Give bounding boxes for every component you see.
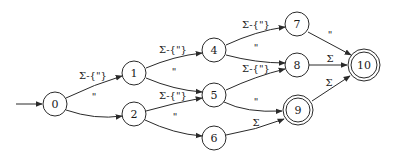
edge-label-7-10: " (328, 29, 333, 40)
svg-text:10: 10 (357, 59, 371, 72)
state-10-accepting: 10 (348, 49, 380, 81)
svg-text:5: 5 (211, 89, 218, 102)
edge-label-4-8: " (254, 42, 259, 53)
state-9-accepting: 9 (283, 95, 313, 125)
svg-text:4: 4 (211, 44, 218, 57)
edge-label-6-9: Σ (252, 117, 259, 128)
automaton-diagram: Σ-{"} " Σ-{"} " Σ-{"} " Σ-{"} " Σ-{"} " … (0, 0, 396, 160)
edge-2-6 (145, 120, 202, 136)
edge-label-8-10: Σ (326, 53, 333, 64)
edge-label-5-8: Σ-{"} (242, 63, 270, 74)
svg-text:8: 8 (294, 59, 301, 72)
state-4: 4 (202, 38, 226, 62)
svg-text:7: 7 (294, 18, 301, 31)
state-6: 6 (202, 126, 226, 150)
edge-label-1-4: Σ-{"} (159, 44, 187, 55)
edge-label-4-7: Σ-{"} (242, 19, 270, 30)
svg-text:1: 1 (131, 67, 138, 80)
state-8: 8 (285, 53, 309, 77)
edge-label-5-9: " (254, 96, 259, 107)
edge-label-0-2: " (92, 91, 97, 102)
edge-label-1-5: " (172, 66, 177, 77)
edge-label-0-1: Σ-{"} (79, 70, 107, 81)
svg-text:2: 2 (131, 108, 138, 121)
state-1: 1 (122, 61, 146, 85)
edge-label-2-5: Σ-{"} (159, 90, 187, 101)
state-0: 0 (43, 92, 67, 116)
edge-0-2 (66, 110, 122, 117)
svg-text:6: 6 (211, 132, 218, 145)
state-7: 7 (285, 12, 309, 36)
state-5: 5 (202, 83, 226, 107)
state-2: 2 (122, 102, 146, 126)
svg-text:9: 9 (295, 104, 302, 117)
edge-label-9-10: Σ (325, 77, 332, 88)
edge-label-2-6: " (173, 111, 178, 122)
svg-text:0: 0 (52, 98, 59, 111)
